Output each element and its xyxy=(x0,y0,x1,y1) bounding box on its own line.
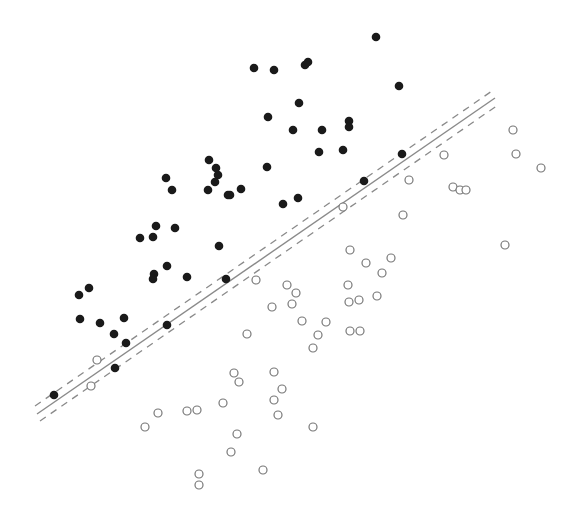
hollow-point xyxy=(339,203,347,211)
filled-point xyxy=(295,99,304,108)
filled-point xyxy=(395,82,404,91)
filled-point xyxy=(111,364,120,373)
filled-point xyxy=(339,146,348,155)
hollow-point xyxy=(355,296,363,304)
filled-point xyxy=(122,339,131,348)
filled-point xyxy=(205,156,214,165)
filled-point xyxy=(294,194,303,203)
filled-point xyxy=(237,185,246,194)
hollow-point xyxy=(314,331,322,339)
hollow-point xyxy=(288,300,296,308)
separator-lines xyxy=(35,91,498,421)
hollow-point xyxy=(345,298,353,306)
hollow-point xyxy=(356,327,364,335)
filled-point xyxy=(96,319,105,328)
filled-point xyxy=(360,177,369,186)
hollow-point xyxy=(292,289,300,297)
filled-point xyxy=(315,148,324,157)
hollow-point xyxy=(283,281,291,289)
hollow-point xyxy=(233,430,241,438)
filled-point xyxy=(398,150,407,159)
filled-point xyxy=(250,64,259,73)
filled-point xyxy=(222,275,231,284)
filled-point xyxy=(152,222,161,231)
hollow-point xyxy=(227,448,235,456)
filled-point xyxy=(211,178,220,187)
scatter-plot-canvas xyxy=(0,0,580,521)
hollow-point xyxy=(270,396,278,404)
hollow-point xyxy=(378,269,386,277)
hollow-point xyxy=(405,176,413,184)
filled-point xyxy=(318,126,327,135)
hollow-point xyxy=(362,259,370,267)
hollow-point xyxy=(235,378,243,386)
filled-point xyxy=(163,321,172,330)
filled-point xyxy=(270,66,279,75)
filled-point xyxy=(136,234,145,243)
filled-point xyxy=(110,330,119,339)
hollow-point xyxy=(298,317,306,325)
filled-class-points xyxy=(50,33,407,400)
filled-point xyxy=(163,262,172,271)
hollow-point xyxy=(87,382,95,390)
decision-boundary-line xyxy=(37,98,495,414)
filled-point xyxy=(168,186,177,195)
hollow-point xyxy=(346,327,354,335)
hollow-point xyxy=(344,281,352,289)
filled-point xyxy=(120,314,129,323)
filled-point xyxy=(183,273,192,282)
hollow-point xyxy=(268,303,276,311)
hollow-point xyxy=(195,481,203,489)
filled-point xyxy=(345,123,354,132)
hollow-point xyxy=(195,470,203,478)
hollow-point xyxy=(154,409,162,417)
filled-point xyxy=(264,113,273,122)
hollow-point xyxy=(387,254,395,262)
hollow-point xyxy=(278,385,286,393)
hollow-point xyxy=(219,399,227,407)
hollow-point xyxy=(373,292,381,300)
hollow-point xyxy=(399,211,407,219)
hollow-point xyxy=(309,423,317,431)
hollow-point xyxy=(270,368,278,376)
filled-point xyxy=(149,233,158,242)
hollow-point xyxy=(230,369,238,377)
hollow-point xyxy=(243,330,251,338)
filled-point xyxy=(85,284,94,293)
hollow-point xyxy=(512,150,520,158)
filled-point xyxy=(76,315,85,324)
hollow-point xyxy=(141,423,149,431)
hollow-point xyxy=(537,164,545,172)
hollow-point xyxy=(93,356,101,364)
hollow-point xyxy=(309,344,317,352)
hollow-point xyxy=(346,246,354,254)
filled-point xyxy=(204,186,213,195)
filled-point xyxy=(263,163,272,172)
filled-point xyxy=(149,275,158,284)
hollow-point xyxy=(322,318,330,326)
hollow-point xyxy=(509,126,517,134)
filled-point xyxy=(162,174,171,183)
hollow-point xyxy=(274,411,282,419)
filled-point xyxy=(215,242,224,251)
filled-point xyxy=(279,200,288,209)
hollow-class-points xyxy=(87,126,545,489)
hollow-point xyxy=(462,186,470,194)
filled-point xyxy=(372,33,381,42)
hollow-point xyxy=(183,407,191,415)
filled-point xyxy=(171,224,180,233)
hollow-point xyxy=(252,276,260,284)
hollow-point xyxy=(259,466,267,474)
margin-line-2 xyxy=(40,105,498,421)
filled-point xyxy=(226,191,235,200)
filled-point xyxy=(304,58,313,67)
filled-point xyxy=(75,291,84,300)
hollow-point xyxy=(440,151,448,159)
margin-line-1 xyxy=(35,91,492,406)
hollow-point xyxy=(193,406,201,414)
filled-point xyxy=(289,126,298,135)
hollow-point xyxy=(501,241,509,249)
filled-point xyxy=(50,391,59,400)
